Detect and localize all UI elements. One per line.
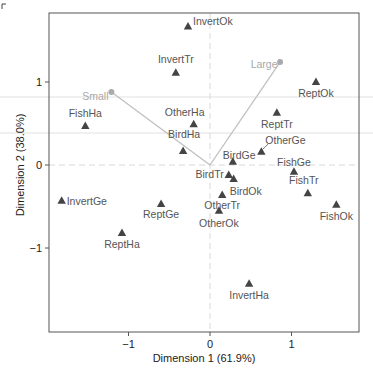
- inverttr-label: InvertTr: [158, 53, 194, 65]
- otherge-label: OtherGe: [265, 134, 305, 146]
- repttr-marker: [273, 108, 281, 116]
- y-tick-label: 1: [36, 76, 42, 88]
- reptha-marker: [118, 229, 126, 237]
- othertr-marker: [218, 190, 226, 198]
- reptha-label: ReptHa: [104, 238, 140, 250]
- fishok-label: FishOk: [320, 210, 354, 222]
- fishha-label: FishHa: [69, 107, 102, 119]
- otherha-label: OtherHa: [165, 106, 205, 118]
- otherok-label: OtherOk: [199, 217, 239, 229]
- large-label: Large: [251, 58, 278, 70]
- correspondence-analysis-chart: SmallLarge InvertOkInvertTrReptOkFishHaO…: [0, 0, 373, 377]
- fishtr-label: FishTr: [289, 174, 319, 186]
- small-marker: [108, 89, 114, 95]
- reptge-marker: [157, 200, 165, 208]
- x-tick-label: 1: [288, 338, 294, 350]
- fishok-marker: [332, 200, 340, 208]
- invertge-marker: [57, 196, 65, 204]
- fishtr-marker: [304, 189, 312, 197]
- invertok-label: InvertOk: [193, 15, 233, 27]
- x-axis: −101: [122, 332, 294, 350]
- large-marker: [277, 59, 283, 65]
- repttr-label: ReptTr: [261, 118, 293, 130]
- otherha-marker: [190, 120, 198, 128]
- birdok-label: BirdOk: [230, 185, 263, 197]
- x-tick-label: 0: [207, 338, 213, 350]
- y-axis: −101: [29, 76, 49, 254]
- birdtr-label: BirdTr: [196, 168, 225, 180]
- birdha-label: BirdHa: [168, 128, 200, 140]
- fishge-label: FishGe: [277, 156, 311, 168]
- invertok-marker: [184, 22, 192, 30]
- othertr-label: OtherTr: [204, 199, 240, 211]
- reptge-label: ReptGe: [143, 208, 179, 220]
- birdge-label: BirdGe: [223, 149, 256, 161]
- x-tick-label: −1: [122, 338, 135, 350]
- invertha-marker: [245, 279, 253, 287]
- fishha-marker: [81, 121, 89, 129]
- birdtr-marker: [225, 170, 233, 178]
- invertha-label: InvertHa: [229, 289, 269, 301]
- corner-mark: [2, 4, 6, 9]
- y-tick-label: −1: [29, 242, 42, 254]
- y-axis-label: Dimension 2 (38.0%): [14, 114, 26, 217]
- inverttr-marker: [172, 68, 180, 76]
- small-label: Small: [82, 90, 108, 102]
- x-axis-label: Dimension 1 (61.9%): [153, 352, 256, 364]
- invertge-label: InvertGe: [67, 195, 107, 207]
- y-tick-label: 0: [36, 159, 42, 171]
- reptok-label: ReptOk: [298, 87, 334, 99]
- reptok-marker: [312, 78, 320, 86]
- row-points: InvertOkInvertTrReptOkFishHaOtherHaReptT…: [57, 15, 353, 300]
